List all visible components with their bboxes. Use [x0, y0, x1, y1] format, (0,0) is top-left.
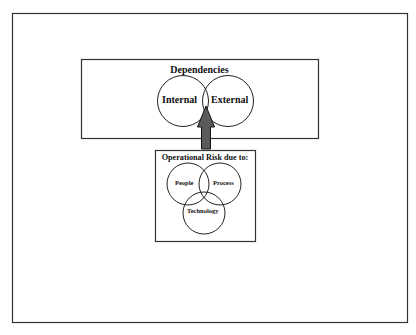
- up-arrow-icon: [198, 106, 215, 149]
- people-label: People: [175, 180, 193, 187]
- operational-risk-title: Operational Risk due to:: [155, 154, 255, 162]
- external-label: External: [211, 95, 248, 105]
- dependencies-title: Dependencies: [81, 65, 318, 75]
- diagram-canvas: [0, 0, 416, 335]
- technology-label: Technology: [187, 208, 219, 215]
- process-label: Process: [213, 180, 234, 187]
- internal-label: Internal: [162, 95, 197, 105]
